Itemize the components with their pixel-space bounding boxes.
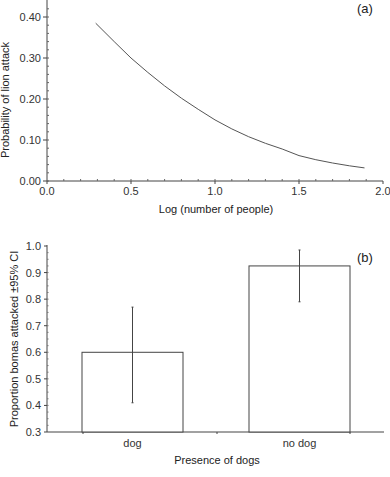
chart-b-y-tick-label: 0.9	[26, 267, 41, 279]
chart-a-y-tick-label: 0.10	[20, 134, 41, 146]
chart-a-y-tick-label: 0.40	[20, 11, 41, 23]
chart-b-panel-label: (b)	[357, 250, 373, 265]
bar-no-dog	[249, 266, 350, 432]
chart-a-ticks: 0.000.100.200.300.400.00.51.01.52.0	[20, 9, 390, 197]
chart-a-x-axis-title: Log (number of people)	[159, 203, 273, 215]
bar-dog	[82, 352, 183, 432]
chart-b-x-axis-title: Presence of dogs	[174, 454, 260, 466]
chart-b-y-tick-label: 1.0	[26, 240, 41, 252]
chart-b-category-label: no dog	[283, 437, 317, 449]
chart-b-y-tick-label: 0.7	[26, 320, 41, 332]
chart-b-axes	[47, 245, 384, 432]
chart-a-x-tick-label: 1.0	[207, 185, 222, 197]
chart-a-y-tick-label: 0.30	[20, 52, 41, 64]
chart-b-y-tick-label: 0.6	[26, 346, 41, 358]
chart-b-y-tick-label: 0.3	[26, 426, 41, 438]
chart-b-y-tick-label: 0.4	[26, 399, 41, 411]
chart-b-ticks: 0.30.40.50.60.70.80.91.0	[26, 240, 350, 438]
chart-b-category-label: dog	[123, 437, 141, 449]
chart-b-y-tick-label: 0.8	[26, 293, 41, 305]
chart-a-y-tick-label: 0.00	[20, 175, 41, 187]
chart-a-x-tick-label: 2.0	[375, 185, 390, 197]
chart-b-y-axis-title: Proportion bomas attacked ±95% CI	[8, 251, 20, 428]
chart-a-y-axis-title: Probability of lion attack	[0, 41, 11, 158]
chart-b-y-tick-label: 0.5	[26, 373, 41, 385]
chart-a-x-tick-label: 0.0	[39, 185, 54, 197]
chart-a-line-plot: 0.000.100.200.300.400.00.51.01.52.0 (a) …	[0, 0, 390, 235]
chart-a-axes	[47, 0, 383, 181]
chart-a-panel-label: (a)	[357, 1, 373, 16]
chart-a-x-tick-label: 0.5	[123, 185, 138, 197]
chart-a-curve	[96, 23, 365, 168]
chart-a-y-tick-label: 0.20	[20, 93, 41, 105]
chart-a-x-tick-label: 1.5	[291, 185, 306, 197]
chart-b-bars: dogno dog	[82, 250, 350, 449]
